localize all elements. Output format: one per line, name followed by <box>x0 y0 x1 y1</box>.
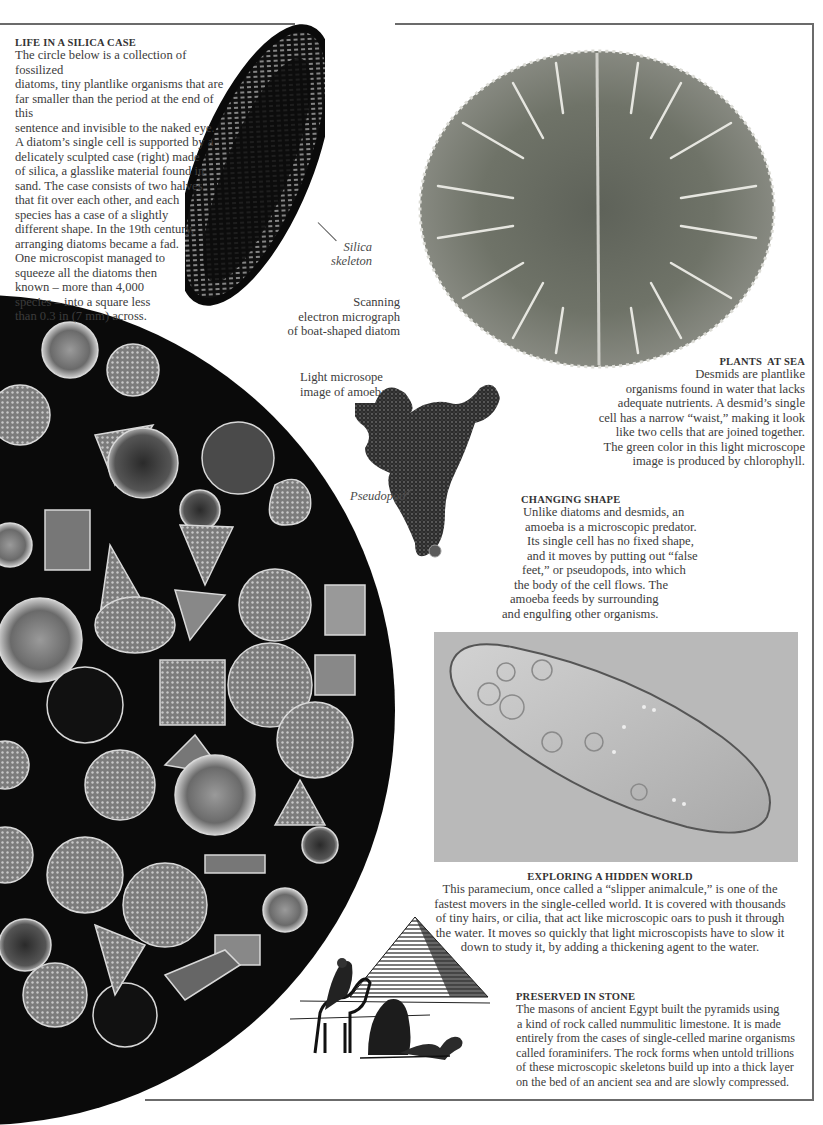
text-line: delicately sculpted case (right) made <box>15 150 230 165</box>
text-line: adequate nutrients. A desmid’s single <box>560 396 805 411</box>
caption-line: electron micrograph <box>240 310 400 325</box>
section-body: Unlike diatoms and desmids, an amoeba is… <box>510 505 710 621</box>
text-line: A diatom’s single cell is supported by a <box>15 135 230 150</box>
text-line: The circle below is a collection of foss… <box>15 48 230 77</box>
section-changing-shape: CHANGING SHAPE Unlike diatoms and desmid… <box>510 494 710 621</box>
text-line: a kind of rock called nummulitic limesto… <box>516 1017 816 1032</box>
text-line: One microscopist managed to <box>15 251 230 266</box>
text-line: than 0.3 in (7 mm) across. <box>15 309 230 324</box>
text-line: organisms found in water that lacks <box>560 382 805 397</box>
pyramid-camels-illustration <box>290 915 490 1065</box>
text-line: feet,” or pseudopods, into which <box>510 563 710 578</box>
section-body: The masons of ancient Egypt built the py… <box>516 1002 816 1089</box>
section-heading: PRESERVED IN STONE <box>516 991 816 1002</box>
label-line: skeleton <box>322 254 372 268</box>
text-line: of silica, a glasslike material found in <box>15 164 230 179</box>
text-line: image is produced by chlorophyll. <box>560 454 805 469</box>
text-line: amoeba feeds by surrounding <box>510 592 710 607</box>
bottom-rule <box>145 1099 814 1101</box>
text-line: amoeba is a microscopic predator. <box>510 520 710 535</box>
text-line: arranging diatoms became a fad. <box>15 237 230 252</box>
text-line: This paramecium, once called a “slipper … <box>400 882 820 897</box>
text-line: far smaller than the period at the end o… <box>15 92 230 121</box>
paramecium-image <box>434 632 798 862</box>
sem-caption: Scanning electron micrograph of boat-sha… <box>240 295 400 339</box>
pseudopod-label: Pseudopod <box>350 489 406 503</box>
section-body: The circle below is a collection of foss… <box>15 48 230 324</box>
text-line: and engulfing other organisms. <box>502 607 710 622</box>
section-preserved-in-stone: PRESERVED IN STONE The masons of ancient… <box>516 991 816 1089</box>
text-line: diatoms, tiny plantlike organisms that a… <box>15 77 230 92</box>
section-heading: EXPLORING A HIDDEN WORLD <box>400 871 820 882</box>
text-line: entirely from the cases of single-celled… <box>516 1031 816 1046</box>
section-heading: LIFE IN A SILICA CASE <box>15 37 230 48</box>
text-line: the body of the cell flows. The <box>510 578 710 593</box>
text-line: like two cells that are joined together. <box>560 425 805 440</box>
text-line: species – into a square less <box>15 295 230 310</box>
section-silica: LIFE IN A SILICA CASE The circle below i… <box>15 37 230 324</box>
caption-line: Scanning <box>240 295 400 310</box>
text-line: cell has a narrow “waist,” making it loo… <box>560 411 805 426</box>
text-line: squeeze all the diatoms then <box>15 266 230 281</box>
text-line: of these microscopic skeletons build up … <box>516 1060 816 1075</box>
text-line: that fit over each other, and each <box>15 193 230 208</box>
label-line: Silica <box>322 240 372 254</box>
section-plants-at-sea: PLANTS AT SEA Desmids are plantlike orga… <box>560 356 805 469</box>
text-line: The green color in this light microscope <box>560 440 805 455</box>
text-line: sentence and invisible to the naked eye. <box>15 121 230 136</box>
top-rule-right <box>395 23 813 25</box>
text-line: species has a case of a slightly <box>15 208 230 223</box>
text-line: Unlike diatoms and desmids, an <box>510 505 710 520</box>
text-line: on the bed of an ancient sea and are slo… <box>516 1075 816 1090</box>
text-line: and it moves by putting out “false <box>510 549 710 564</box>
section-heading: CHANGING SHAPE <box>510 494 710 505</box>
amoeba-image <box>355 373 515 583</box>
text-line: different shape. In the 19th century, <box>15 222 230 237</box>
text-line: known – more than 4,000 <box>15 280 230 295</box>
section-body: Desmids are plantlike organisms found in… <box>560 367 805 469</box>
desmid-image <box>418 48 776 370</box>
section-heading: PLANTS AT SEA <box>560 356 805 367</box>
text-line: Its single cell has no fixed shape, <box>510 534 710 549</box>
text-line: fastest movers in the single-celled worl… <box>400 897 820 912</box>
text-line: sand. The case consists of two halves <box>15 179 230 194</box>
text-line: The masons of ancient Egypt built the py… <box>516 1002 816 1017</box>
silica-skeleton-label: Silica skeleton <box>322 240 372 268</box>
text-line: Desmids are plantlike <box>560 367 805 382</box>
text-line: called foraminifers. The rock forms when… <box>516 1046 816 1061</box>
caption-line: of boat-shaped diatom <box>240 324 400 339</box>
